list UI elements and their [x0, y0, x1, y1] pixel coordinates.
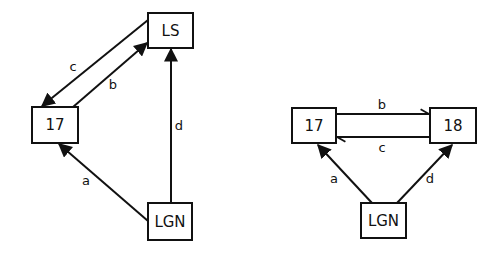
edge-d-lgn-to-18 [397, 145, 452, 203]
node-label: LGN [154, 213, 185, 231]
edge-label-a: a [330, 171, 338, 186]
node-label: 18 [443, 117, 462, 135]
edge-label-b: b [378, 97, 386, 112]
edge-label-c: c [69, 59, 76, 74]
node-lgn: LGN [361, 203, 406, 238]
node-17: 17 [292, 108, 336, 143]
node-17: 17 [32, 107, 78, 143]
left-diagram: LS 17 LGN c b d a [32, 13, 193, 240]
right-diagram: 17 18 LGN b c a d [292, 97, 476, 239]
node-ls: LS [148, 13, 193, 48]
edge-a-lgn-to-17 [59, 144, 148, 221]
edge-label-d: d [426, 171, 434, 186]
node-lgn: LGN [148, 203, 192, 240]
diagram-canvas: LS 17 LGN c b d a 17 18 [0, 0, 502, 253]
edge-c-ls-to-17 [42, 20, 148, 106]
node-label: LS [162, 22, 180, 40]
edge-label-b: b [109, 77, 117, 92]
node-label: 17 [304, 117, 323, 135]
node-18: 18 [430, 108, 476, 143]
node-label: 17 [45, 116, 64, 134]
edge-a-lgn-to-17 [318, 145, 372, 203]
edge-b-17-to-ls [73, 43, 147, 107]
edge-label-c: c [378, 140, 385, 155]
edge-label-a: a [82, 173, 90, 188]
edge-label-d: d [175, 118, 183, 133]
node-label: LGN [368, 212, 399, 230]
